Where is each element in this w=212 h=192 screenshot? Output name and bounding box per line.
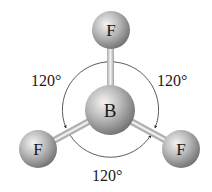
svg-text:F: F bbox=[33, 140, 42, 159]
angle-label-bottom: 120° bbox=[92, 167, 122, 184]
svg-text:F: F bbox=[106, 21, 115, 40]
svg-text:F: F bbox=[176, 140, 185, 159]
svg-text:B: B bbox=[104, 100, 117, 121]
atom-f-right: F bbox=[162, 130, 200, 168]
bf3-diagram: F B F F 120° 120° 120° bbox=[0, 0, 212, 192]
atom-f-left: F bbox=[19, 130, 57, 168]
atom-f-top: F bbox=[92, 11, 130, 49]
angle-label-upper-left: 120° bbox=[31, 72, 61, 89]
atom-b-center: B bbox=[85, 85, 135, 135]
angle-label-upper-right: 120° bbox=[157, 72, 187, 89]
